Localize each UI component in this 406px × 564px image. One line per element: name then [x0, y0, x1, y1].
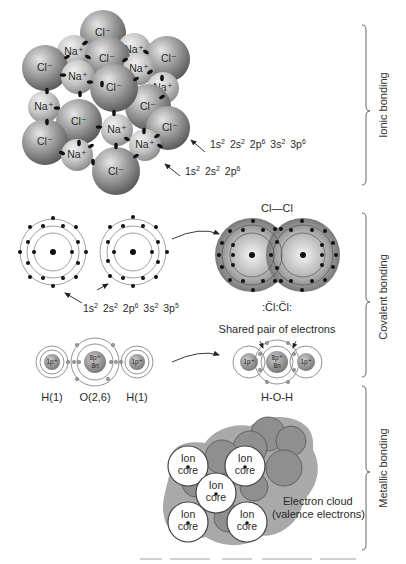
electron-cloud-sublabel: (valence electrons) [272, 508, 365, 520]
na-ion-config: 1s2 2s2 2p6 [185, 161, 241, 177]
water-formula: H-O-H [261, 391, 293, 403]
h-atom-left: 1p⁺ [36, 346, 68, 378]
svg-text:8n: 8n [273, 362, 281, 369]
electron-dots [18, 215, 169, 288]
na-config-arrow [165, 164, 180, 176]
svg-text:8n: 8n [91, 362, 99, 369]
cl-atom-config: 1s2 2s2 2p6 3s2 3p5 [83, 298, 179, 314]
svg-text:Ion: Ion [181, 508, 196, 520]
svg-text:Na⁺: Na⁺ [107, 123, 126, 135]
svg-text:1p⁺: 1p⁺ [243, 358, 254, 366]
bonding-diagram: Cl⁻ Na⁺ Na⁺ Cl⁻ Cl⁻ Cl⁻ Na⁺ Na⁺ Na⁺ Cl⁻ … [0, 0, 406, 564]
svg-text:1p⁺: 1p⁺ [46, 358, 57, 366]
water-molecule: 1p⁺ 8p⁺ 8n 1p⁺ H-O-H [233, 340, 322, 403]
svg-text:Ion: Ion [238, 452, 253, 464]
svg-text:Ion: Ion [240, 508, 255, 520]
svg-text:Na⁺: Na⁺ [135, 138, 154, 150]
na-ion-sphere: Na⁺ [61, 139, 93, 171]
na-ion-sphere: Na⁺ [61, 60, 95, 94]
reaction-arrow-water [172, 353, 219, 362]
svg-text:Cl⁻: Cl⁻ [99, 52, 115, 64]
svg-text:core: core [178, 520, 199, 532]
svg-text:Na⁺: Na⁺ [67, 148, 86, 160]
svg-text:core: core [178, 464, 199, 476]
electron-cloud-label: Electron cloud [283, 495, 353, 507]
svg-text:Cl⁻: Cl⁻ [106, 81, 122, 93]
section-braces [362, 25, 370, 550]
svg-text:Cl⁻: Cl⁻ [162, 121, 178, 133]
svg-text:8p⁺: 8p⁺ [89, 354, 100, 362]
cropped-caption-fragment [140, 558, 356, 560]
svg-text:core: core [237, 520, 258, 532]
h-atom-label: H(1) [126, 391, 147, 403]
cl-ion-sphere: Cl⁻ [90, 64, 138, 112]
svg-text:Cl⁻: Cl⁻ [140, 100, 156, 112]
svg-text:Cl⁻: Cl⁻ [95, 26, 111, 38]
svg-text:core: core [206, 491, 227, 503]
svg-text:Na⁺: Na⁺ [34, 100, 53, 112]
cl2-molecule [215, 218, 340, 292]
config-arrow-left [65, 293, 82, 303]
svg-text:Na⁺: Na⁺ [129, 62, 148, 74]
cl-config-arrow [191, 140, 205, 152]
cl-ion-config: 1s2 2s2 2p6 3s2 3p6 [210, 134, 306, 150]
cl2-lewis-structure: :C̈l:C̈l: [262, 301, 292, 313]
o-atom-label: O(2,6) [79, 391, 110, 403]
svg-text:8p⁺: 8p⁺ [271, 354, 282, 362]
svg-text:Cl⁻: Cl⁻ [37, 61, 53, 73]
cl-ion-sphere: Cl⁻ [92, 147, 140, 195]
h-atom-right: 1p⁺ [121, 346, 153, 378]
ionic-lattice: Cl⁻ Na⁺ Na⁺ Cl⁻ Cl⁻ Cl⁻ Na⁺ Na⁺ Na⁺ Cl⁻ … [22, 10, 190, 195]
cl-ion-sphere: Cl⁻ [22, 45, 68, 91]
svg-text:1p⁺: 1p⁺ [131, 358, 142, 366]
metallic-lattice: Ioncore Ioncore Ioncore Ioncore Ioncore … [163, 417, 365, 545]
h-atom-label: H(1) [41, 391, 62, 403]
svg-text:Cl⁻: Cl⁻ [108, 165, 124, 177]
svg-text:core: core [235, 464, 256, 476]
config-arrow-right [97, 284, 108, 290]
water-atoms: 1p⁺ 8p⁺ 8n 1p⁺ H(1) O(2,6) H(1) [36, 338, 153, 403]
svg-text:Na⁺: Na⁺ [68, 70, 87, 82]
svg-text:Cl⁻: Cl⁻ [161, 52, 177, 64]
svg-text:Ion: Ion [181, 452, 196, 464]
reaction-arrow-cl [172, 231, 219, 239]
shared-pair-label: Shared pair of electrons [219, 323, 336, 335]
ionic-bonding-label: Ionic bonding [377, 72, 389, 137]
cl-ion-sphere: Cl⁻ [22, 119, 68, 165]
svg-text:Cl⁻: Cl⁻ [71, 115, 87, 127]
cl2-formula: Cl—Cl [261, 202, 293, 214]
metallic-bonding-label: Metallic bonding [377, 428, 389, 508]
svg-text:Cl⁻: Cl⁻ [37, 135, 53, 147]
svg-text:1p⁺: 1p⁺ [300, 358, 311, 366]
covalent-bonding-label: Covalent bonding [377, 254, 389, 340]
svg-text:Ion: Ion [209, 479, 224, 491]
